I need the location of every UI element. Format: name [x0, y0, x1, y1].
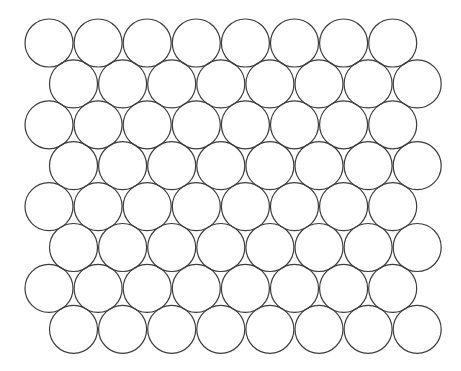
- circle: [74, 19, 122, 67]
- circle: [295, 224, 343, 272]
- circle: [369, 19, 417, 67]
- circle: [320, 101, 368, 149]
- circle: [99, 60, 147, 108]
- circle: [246, 60, 294, 108]
- circle: [123, 183, 171, 231]
- circle: [320, 183, 368, 231]
- circle: [25, 264, 73, 312]
- circle: [271, 101, 319, 149]
- circle: [25, 183, 73, 231]
- circle: [123, 19, 171, 67]
- circle: [344, 305, 392, 353]
- circle: [197, 305, 245, 353]
- circle: [369, 264, 417, 312]
- circle: [393, 142, 441, 190]
- circle: [295, 142, 343, 190]
- circle: [74, 264, 122, 312]
- circle: [369, 183, 417, 231]
- circle: [172, 101, 220, 149]
- circle: [246, 305, 294, 353]
- circle: [344, 142, 392, 190]
- circle: [74, 183, 122, 231]
- circle-packing-diagram: [0, 0, 461, 371]
- circle: [271, 264, 319, 312]
- circle: [148, 142, 196, 190]
- circle: [50, 305, 98, 353]
- circle: [221, 101, 269, 149]
- circle: [320, 264, 368, 312]
- circle: [393, 305, 441, 353]
- circle: [197, 224, 245, 272]
- circle: [246, 142, 294, 190]
- circle: [295, 305, 343, 353]
- circle: [271, 183, 319, 231]
- circle: [50, 142, 98, 190]
- circle: [148, 60, 196, 108]
- circle: [25, 19, 73, 67]
- circle: [221, 19, 269, 67]
- circle: [197, 142, 245, 190]
- circle: [172, 19, 220, 67]
- circle: [393, 224, 441, 272]
- circle: [50, 60, 98, 108]
- circle: [344, 224, 392, 272]
- circle: [221, 183, 269, 231]
- circle: [50, 224, 98, 272]
- circle: [99, 142, 147, 190]
- circle: [99, 224, 147, 272]
- circle: [123, 101, 171, 149]
- circle: [246, 224, 294, 272]
- circle: [393, 60, 441, 108]
- circle: [344, 60, 392, 108]
- circle: [148, 305, 196, 353]
- circle: [172, 183, 220, 231]
- circle: [197, 60, 245, 108]
- circle: [320, 19, 368, 67]
- circle: [295, 60, 343, 108]
- circle-grid: [25, 19, 441, 353]
- circle: [369, 101, 417, 149]
- circle: [271, 19, 319, 67]
- circle: [123, 264, 171, 312]
- circle: [25, 101, 73, 149]
- circle: [221, 264, 269, 312]
- circle: [172, 264, 220, 312]
- circle: [148, 224, 196, 272]
- circle: [99, 305, 147, 353]
- circle: [74, 101, 122, 149]
